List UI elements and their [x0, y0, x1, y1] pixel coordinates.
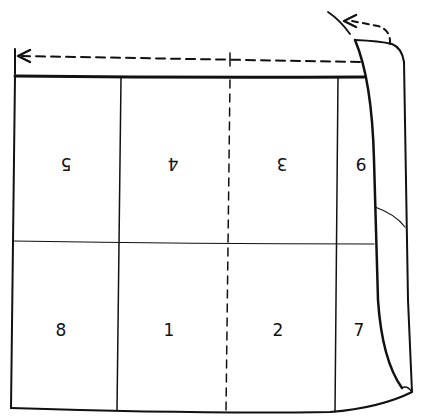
panel-label-4: 4 — [168, 154, 179, 174]
divider-horizontal — [13, 241, 374, 244]
panel-label-5: 5 — [61, 154, 72, 174]
arrow-top-dashed — [22, 56, 360, 62]
flap-curl — [402, 387, 412, 392]
sheet-bottom-edge — [11, 392, 412, 413]
panel-label-9: 9 — [356, 154, 367, 174]
panel-labels: 5 4 3 9 8 1 2 7 — [56, 154, 367, 340]
panel-label-3: 3 — [277, 154, 288, 174]
sheet-top-edge — [15, 76, 364, 77]
panel-label-7: 7 — [354, 320, 365, 340]
folding-diagram: 5 4 3 9 8 1 2 7 — [0, 0, 423, 420]
fold-line-dashed — [226, 80, 230, 412]
divider-vertical-1 — [117, 78, 121, 410]
panel-label-1: 1 — [164, 320, 175, 340]
panel-label-2: 2 — [273, 320, 284, 340]
flap-crease — [375, 207, 405, 227]
panel-label-8: 8 — [56, 320, 67, 340]
divider-vertical-3 — [335, 78, 338, 412]
sheet-left-edge — [11, 76, 15, 408]
